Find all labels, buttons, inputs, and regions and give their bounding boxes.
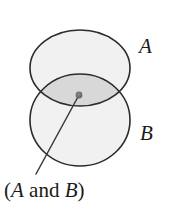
intersection-label-open-paren: ( (4, 178, 11, 202)
intersection-label-set-b: B (65, 178, 78, 202)
intersection-marker-dot (76, 92, 83, 99)
intersection-label-close-paren: ) (77, 178, 84, 202)
set-a-label: A (139, 36, 152, 57)
intersection-label-conjunction: and (24, 178, 65, 202)
set-b-label: B (140, 123, 153, 144)
venn-diagram-figure: A B (A and B) (0, 0, 186, 209)
intersection-label: (A and B) (4, 180, 84, 201)
intersection-label-set-a: A (11, 178, 24, 202)
